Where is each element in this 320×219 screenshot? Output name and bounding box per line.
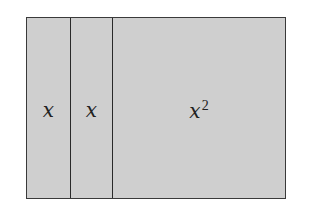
area-model-rectangle: x x x2 <box>26 17 286 199</box>
base: x <box>189 98 200 122</box>
region-x-squared: x2 <box>112 18 285 198</box>
region-label: x <box>86 98 97 122</box>
region-label-x-squared: x2 <box>189 98 208 123</box>
exponent: 2 <box>202 98 209 113</box>
region-x-second: x <box>70 18 112 198</box>
region-label: x <box>43 98 54 122</box>
region-x-first: x <box>27 18 70 198</box>
